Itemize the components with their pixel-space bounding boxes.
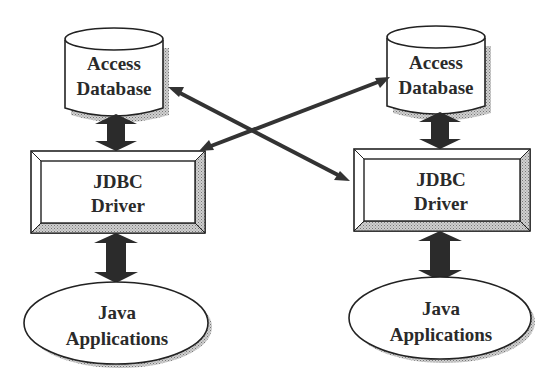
right-driver-label-line1: JDBC [416, 169, 466, 190]
left-java-applications: Java Applications [24, 282, 212, 368]
right-app-label-line2: Applications [390, 324, 492, 345]
right-driver-label-line2: Driver [414, 193, 468, 214]
right-db-to-left-driver-arrow [199, 77, 390, 151]
left-driver-label-line1: JDBC [93, 171, 143, 192]
left-app-label-line1: Java [98, 302, 137, 323]
right-app-label-line1: Java [422, 298, 461, 319]
right-java-applications: Java Applications [349, 277, 535, 363]
jdbc-architecture-diagram: Access Database JDBC Driver Java Applica… [0, 0, 558, 383]
left-database-label-line2: Database [77, 78, 152, 99]
left-database-label-line1: Access [87, 53, 141, 74]
right-jdbc-driver: JDBC Driver [354, 149, 530, 231]
right-database-label-line2: Database [399, 77, 474, 98]
right-driver-app-arrow [418, 231, 462, 281]
left-app-label-line2: Applications [66, 328, 168, 349]
left-driver-app-arrow [94, 233, 138, 283]
left-driver-label-line2: Driver [91, 195, 145, 216]
right-stack: Access Database JDBC Driver Java Applica… [349, 26, 535, 363]
left-jdbc-driver: JDBC Driver [31, 151, 205, 233]
left-access-database: Access Database [65, 28, 169, 123]
right-database-label-line1: Access [409, 52, 463, 73]
left-stack: Access Database JDBC Driver Java Applica… [24, 28, 212, 368]
right-access-database: Access Database [387, 26, 491, 121]
